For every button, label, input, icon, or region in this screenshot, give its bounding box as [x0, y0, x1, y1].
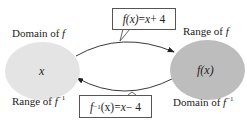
domain-element-x: x: [39, 64, 44, 79]
range-of-f-inverse-label: Range of f−1: [12, 94, 65, 107]
range-element-fx: f(x): [197, 63, 214, 78]
range-of-f-label: Range of f: [183, 25, 229, 37]
forward-callout-pointer: [120, 29, 130, 41]
inverse-function-box: f−1(x) = x − 4: [79, 95, 152, 118]
forward-function-box: f(x) = x + 4: [112, 8, 176, 30]
domain-of-f-inverse-label: Domain of f−1: [173, 95, 234, 108]
forward-arrow: [76, 42, 174, 56]
inverse-arrow: [77, 78, 174, 91]
domain-of-f-label: Domain of f: [12, 27, 65, 39]
